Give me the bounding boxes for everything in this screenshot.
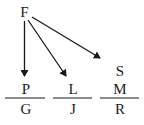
- fraction-sm-over-r: S M R: [100, 63, 139, 117]
- node-l: L: [68, 81, 77, 97]
- hierarchy-diagram: F P G L J S M R: [0, 0, 144, 125]
- fraction-l-over-j: L J: [53, 81, 92, 117]
- node-m: M: [113, 81, 126, 97]
- node-s: S: [116, 63, 124, 79]
- diagram-canvas: F P G L J S M R: [0, 0, 144, 125]
- node-r: R: [115, 101, 125, 117]
- node-p: P: [22, 81, 30, 97]
- arrow-f-to-s: [32, 17, 100, 58]
- fraction-p-over-g: P G: [5, 81, 45, 117]
- arrow-f-to-l: [28, 20, 66, 76]
- node-g: G: [21, 101, 32, 117]
- node-j: J: [70, 101, 76, 117]
- root-node-f: F: [20, 4, 28, 20]
